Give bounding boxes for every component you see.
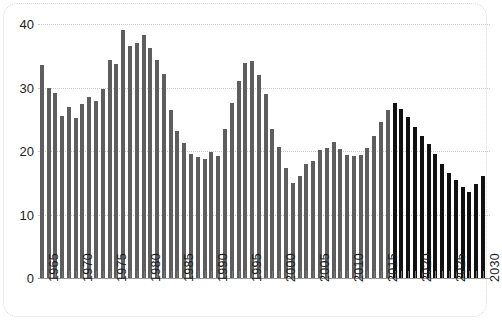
x-tick-2029: [476, 271, 477, 278]
bar-1974: [101, 89, 105, 278]
bar-2017: [393, 103, 397, 278]
x-tick-2028: [469, 271, 470, 278]
x-tick-2009: [340, 271, 341, 278]
bar-2018: [399, 109, 403, 278]
x-tick-label-2010: 2010: [352, 253, 366, 282]
x-tick-2018: [401, 271, 402, 278]
x-tick-1998: [266, 271, 267, 278]
bar-1975: [108, 60, 112, 278]
x-tick-1994: [239, 271, 240, 278]
bar-1984: [169, 110, 173, 278]
x-tick-2030: [483, 271, 484, 278]
plot-area: [38, 24, 490, 278]
bar-1983: [162, 74, 166, 278]
y-tick-label-0: 0: [4, 271, 34, 286]
x-tick-label-2020: 2020: [420, 253, 434, 282]
y-tick-label-40: 40: [4, 17, 34, 32]
x-tick-2015: [381, 271, 382, 278]
x-tick-label-1990: 1990: [216, 253, 230, 282]
bar-2020: [413, 127, 417, 278]
bar-1980: [142, 35, 146, 278]
bar-1972: [87, 97, 91, 278]
x-tick-1985: [177, 271, 178, 278]
x-tick-1989: [205, 271, 206, 278]
y-tick-label-20: 20: [4, 144, 34, 159]
bar-2010: [345, 155, 349, 278]
y-tick-label-30: 30: [4, 80, 34, 95]
bar-1994: [237, 81, 241, 278]
bar-1998: [264, 94, 268, 278]
x-tick-1984: [171, 271, 172, 278]
x-tick-1975: [110, 271, 111, 278]
bar-1996: [250, 61, 254, 278]
x-axis-tick-labels: 1965197019751980198519901995200020052010…: [38, 282, 490, 332]
x-tick-1965: [42, 271, 43, 278]
bar-2030: [481, 176, 485, 278]
bar-2024: [440, 164, 444, 278]
x-tick-label-1995: 1995: [250, 253, 264, 282]
x-tick-2023: [435, 271, 436, 278]
bar-1966: [47, 88, 51, 279]
x-tick-2024: [442, 271, 443, 278]
x-tick-label-1965: 1965: [47, 253, 61, 282]
x-tick-1999: [272, 271, 273, 278]
bar-1976: [114, 64, 118, 278]
x-tick-label-2005: 2005: [318, 253, 332, 282]
x-tick-2025: [449, 271, 450, 278]
bar-1973: [94, 101, 98, 278]
bar-1981: [148, 48, 152, 279]
x-tick-1978: [130, 271, 131, 278]
bar-1965: [40, 65, 44, 278]
x-tick-2004: [306, 271, 307, 278]
x-tick-2003: [300, 271, 301, 278]
bar-2014: [372, 136, 376, 278]
x-tick-1988: [198, 271, 199, 278]
x-tick-1993: [232, 271, 233, 278]
bar-2008: [332, 142, 336, 278]
bar-2019: [406, 117, 410, 278]
x-tick-1968: [62, 271, 63, 278]
bar-1990: [209, 152, 213, 278]
x-tick-label-1980: 1980: [149, 253, 163, 282]
bar-1982: [155, 60, 159, 278]
y-tick-label-10: 10: [4, 207, 34, 222]
x-tick-label-1975: 1975: [115, 253, 129, 282]
bar-1969: [67, 107, 71, 278]
x-tick-1979: [137, 271, 138, 278]
bar-2000: [277, 147, 281, 278]
x-tick-2013: [367, 271, 368, 278]
bar-series: [38, 24, 490, 278]
x-tick-2008: [334, 271, 335, 278]
bar-1993: [230, 103, 234, 278]
bar-2025: [447, 173, 451, 278]
x-tick-label-2030: 2030: [488, 253, 502, 282]
x-tick-1973: [96, 271, 97, 278]
x-tick-2010: [347, 271, 348, 278]
bar-1970: [74, 118, 78, 278]
bar-2015: [379, 122, 383, 278]
x-tick-2005: [313, 271, 314, 278]
bar-2003: [298, 176, 302, 278]
x-tick-1970: [76, 271, 77, 278]
bar-1988: [196, 157, 200, 278]
bar-2013: [365, 148, 369, 278]
x-tick-2020: [415, 271, 416, 278]
bar-1978: [128, 46, 132, 278]
x-tick-label-1985: 1985: [182, 253, 196, 282]
bar-1985: [175, 131, 179, 278]
x-tick-1983: [164, 271, 165, 278]
bar-1997: [257, 75, 261, 278]
x-tick-2019: [408, 271, 409, 278]
bar-1995: [243, 63, 247, 278]
bar-1989: [203, 159, 207, 278]
x-tick-1990: [211, 271, 212, 278]
x-tick-label-2015: 2015: [386, 253, 400, 282]
bar-1971: [80, 104, 84, 278]
bar-1967: [53, 93, 57, 278]
x-tick-1969: [69, 271, 70, 278]
bar-1977: [121, 30, 125, 278]
x-tick-1980: [144, 271, 145, 278]
x-tick-2000: [279, 271, 280, 278]
x-tick-label-2025: 2025: [454, 253, 468, 282]
